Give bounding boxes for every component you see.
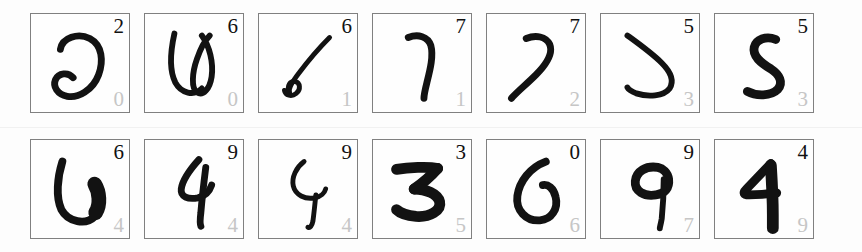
true-label: 6 — [570, 215, 581, 236]
predicted-label: 6 — [114, 142, 125, 163]
true-label: 4 — [114, 215, 125, 236]
predicted-label: 6 — [228, 16, 239, 37]
true-label: 4 — [228, 215, 239, 236]
digit-cell[interactable]: 4 9 — [714, 139, 814, 239]
digit-cell[interactable]: 0 6 — [486, 139, 586, 239]
predicted-label: 7 — [570, 16, 581, 37]
digit-cell[interactable]: 6 0 — [144, 13, 244, 113]
digit-cell[interactable]: 5 3 — [714, 13, 814, 113]
predicted-label: 5 — [798, 16, 809, 37]
digit-row-1: 2 0 6 0 6 1 7 1 — [0, 0, 862, 126]
digit-cell[interactable]: 6 1 — [258, 13, 358, 113]
true-label: 3 — [684, 89, 695, 110]
digit-row-2: 6 4 9 4 9 4 — [0, 126, 862, 252]
digit-cell[interactable]: 9 4 — [144, 139, 244, 239]
predicted-label: 0 — [570, 142, 581, 163]
true-label: 5 — [456, 215, 467, 236]
digit-cell[interactable]: 7 1 — [372, 13, 472, 113]
true-label: 3 — [798, 89, 809, 110]
digit-cell[interactable]: 7 2 — [486, 13, 586, 113]
digit-cell[interactable]: 5 3 — [600, 13, 700, 113]
true-label: 1 — [342, 89, 353, 110]
predicted-label: 3 — [456, 142, 467, 163]
digit-cell[interactable]: 9 7 — [600, 139, 700, 239]
digit-cell[interactable]: 6 4 — [30, 139, 130, 239]
true-label: 2 — [570, 89, 581, 110]
predicted-label: 5 — [684, 16, 695, 37]
predicted-label: 2 — [114, 16, 125, 37]
predicted-label: 9 — [228, 142, 239, 163]
true-label: 7 — [684, 215, 695, 236]
true-label: 1 — [456, 89, 467, 110]
predicted-label: 4 — [798, 142, 809, 163]
true-label: 9 — [798, 215, 809, 236]
true-label: 0 — [114, 89, 125, 110]
true-label: 4 — [342, 215, 353, 236]
true-label: 0 — [228, 89, 239, 110]
predicted-label: 9 — [684, 142, 695, 163]
predicted-label: 9 — [342, 142, 353, 163]
digit-cell[interactable]: 3 5 — [372, 139, 472, 239]
digit-grid: 2 0 6 0 6 1 7 1 — [0, 0, 862, 252]
predicted-label: 6 — [342, 16, 353, 37]
digit-cell[interactable]: 2 0 — [30, 13, 130, 113]
predicted-label: 7 — [456, 16, 467, 37]
digit-cell[interactable]: 9 4 — [258, 139, 358, 239]
